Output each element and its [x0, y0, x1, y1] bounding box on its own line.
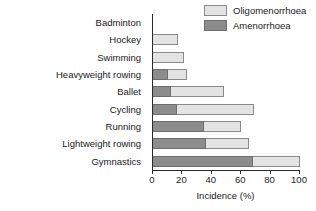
category-label: Running — [0, 118, 146, 135]
legend-label: Amenorrhoea — [233, 21, 291, 31]
bar-stack — [153, 121, 241, 132]
bar-stack — [153, 69, 187, 80]
chart-figure: Badminton Hockey Swimming Heavyweight ro… — [0, 0, 316, 211]
bar-segment-amen — [153, 121, 204, 132]
legend-item-oligomenorrhoea: Oligomenorrhoea — [204, 5, 306, 16]
x-tick-label: 100 — [291, 175, 307, 185]
bar-row — [153, 66, 300, 83]
bar-segment-amen — [153, 156, 253, 167]
bar-row — [153, 118, 300, 135]
bar-segment-oligo — [153, 52, 184, 63]
bar-stack — [153, 86, 224, 97]
bar-segment-oligo — [153, 34, 178, 45]
bar-row — [153, 49, 300, 66]
category-label: Hockey — [0, 31, 146, 48]
x-tick-label: 60 — [235, 175, 246, 185]
x-tick-label: 20 — [176, 175, 187, 185]
category-label: Ballet — [0, 83, 146, 100]
category-axis-labels: Badminton Hockey Swimming Heavyweight ro… — [0, 14, 146, 170]
bar-row — [153, 83, 300, 100]
bar-stack — [153, 104, 254, 115]
bar-segment-amen — [153, 104, 177, 115]
bar-rows — [153, 14, 300, 170]
plot-area — [152, 14, 300, 170]
bar-stack — [153, 34, 178, 45]
bar-segment-oligo — [168, 69, 187, 80]
bar-segment-oligo — [206, 138, 249, 149]
x-axis-title: Incidence (%) — [152, 191, 299, 201]
bar-row — [153, 31, 300, 48]
bar-segment-amen — [153, 69, 168, 80]
category-label: Cycling — [0, 101, 146, 118]
bar-segment-amen — [153, 138, 206, 149]
bar-segment-oligo — [253, 156, 300, 167]
x-tick-label: 40 — [206, 175, 217, 185]
bar-stack — [153, 52, 184, 63]
bar-stack — [153, 156, 300, 167]
bar-stack — [153, 138, 249, 149]
x-axis-line — [152, 170, 299, 171]
legend: Oligomenorrhoea Amenorrhoea — [204, 5, 306, 31]
x-tick-label: 80 — [264, 175, 275, 185]
category-label: Heavyweight rowing — [0, 66, 146, 83]
bar-segment-oligo — [204, 121, 241, 132]
legend-item-amenorrhoea: Amenorrhoea — [204, 20, 306, 31]
bar-segment-oligo — [177, 104, 255, 115]
bar-segment-amen — [153, 86, 171, 97]
legend-swatch-icon — [204, 5, 227, 16]
legend-label: Oligomenorrhoea — [233, 6, 306, 16]
category-label: Gymnastics — [0, 153, 146, 170]
category-label: Badminton — [0, 14, 146, 31]
bar-segment-oligo — [171, 86, 224, 97]
bar-row — [153, 135, 300, 152]
x-tick-label: 0 — [149, 175, 154, 185]
category-label: Lightweight rowing — [0, 135, 146, 152]
bar-row — [153, 153, 300, 170]
bar-row — [153, 101, 300, 118]
legend-swatch-icon — [204, 20, 227, 31]
category-label: Swimming — [0, 49, 146, 66]
